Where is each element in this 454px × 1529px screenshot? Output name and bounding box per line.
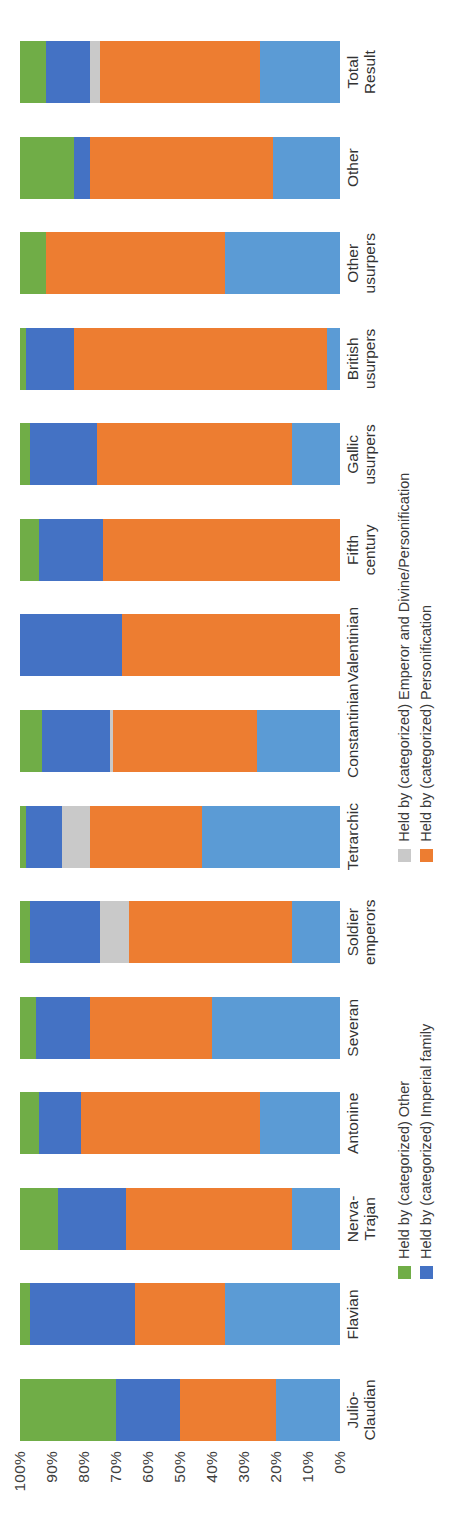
- bar-segment[interactable]: [260, 41, 340, 103]
- bar-column[interactable]: [20, 1188, 340, 1250]
- x-axis-tick-label: Nerva-Trajan: [344, 1182, 379, 1256]
- bar-segment[interactable]: [212, 997, 340, 1059]
- bar-segment[interactable]: [20, 997, 36, 1059]
- bar-column[interactable]: [20, 1092, 340, 1154]
- y-axis-tick-label: 80%: [75, 1451, 93, 1483]
- bar-segment[interactable]: [20, 1188, 58, 1250]
- bar-segment[interactable]: [20, 901, 30, 963]
- bar-column[interactable]: [20, 232, 340, 294]
- legend-swatch-icon: [398, 1266, 411, 1279]
- bar-segment[interactable]: [116, 1379, 180, 1441]
- bar-segment[interactable]: [292, 1188, 340, 1250]
- bar-column[interactable]: [20, 423, 340, 485]
- bar-segment[interactable]: [135, 1283, 225, 1345]
- x-axis-tick-label: Total Result: [344, 35, 379, 109]
- bar-segment[interactable]: [103, 519, 340, 581]
- bar-segment[interactable]: [126, 1188, 292, 1250]
- bar-column[interactable]: [20, 41, 340, 103]
- bar-segment[interactable]: [39, 519, 103, 581]
- bar-column[interactable]: [20, 710, 340, 772]
- bar-segment[interactable]: [81, 1092, 260, 1154]
- bar-segment[interactable]: [276, 1379, 340, 1441]
- y-axis-tick-label: 50%: [171, 1451, 189, 1483]
- bar-segment[interactable]: [90, 806, 202, 868]
- bar-segment[interactable]: [30, 901, 100, 963]
- bar-segment[interactable]: [20, 1092, 39, 1154]
- bar-segment[interactable]: [292, 423, 340, 485]
- legend-item[interactable]: Held by (categorized) Imperial family: [418, 892, 434, 1279]
- x-axis-tick-label: Antonine: [344, 1086, 361, 1160]
- bar-segment[interactable]: [327, 328, 340, 390]
- bar-segment[interactable]: [273, 137, 340, 199]
- bar-segment[interactable]: [20, 519, 39, 581]
- bar-segment[interactable]: [90, 137, 272, 199]
- bar-segment[interactable]: [20, 1379, 116, 1441]
- bar-segment[interactable]: [225, 232, 340, 294]
- bar-segment[interactable]: [180, 1379, 276, 1441]
- x-axis-tick-label: Severan: [344, 991, 361, 1065]
- legend-item[interactable]: Held by (categorized) Emperor and Divine…: [396, 341, 412, 862]
- legend-item[interactable]: Held by (categorized) Other: [396, 892, 412, 1279]
- bar-segment[interactable]: [100, 41, 260, 103]
- bar-segment[interactable]: [202, 806, 340, 868]
- x-axis-tick-label: Other usurpers: [344, 226, 379, 300]
- bar-segment[interactable]: [20, 1283, 30, 1345]
- y-axis-percent: 100%90%80%70%60%50%40%30%20%10%0%: [20, 1445, 340, 1529]
- bar-column[interactable]: [20, 615, 340, 677]
- bar-segment[interactable]: [39, 1092, 81, 1154]
- bar-column[interactable]: [20, 806, 340, 868]
- bar-segment[interactable]: [74, 328, 327, 390]
- x-axis-tick-label: Fifth century: [344, 513, 379, 587]
- bar-segment[interactable]: [113, 710, 257, 772]
- bar-segment[interactable]: [58, 1188, 125, 1250]
- bar-segment[interactable]: [20, 232, 46, 294]
- chart-legend: Held by (categorized) OtherHeld by (cate…: [396, 179, 448, 1279]
- bar-segment[interactable]: [42, 710, 109, 772]
- bar-segment[interactable]: [46, 232, 225, 294]
- bar-segment[interactable]: [100, 901, 129, 963]
- bar-segment[interactable]: [20, 615, 122, 677]
- x-axis-tick-label: Other: [344, 131, 361, 205]
- bar-segment[interactable]: [292, 901, 340, 963]
- bar-segment[interactable]: [20, 137, 74, 199]
- bar-column[interactable]: [20, 1379, 340, 1441]
- bar-segment[interactable]: [122, 615, 340, 677]
- legend-swatch-icon: [420, 849, 433, 862]
- bar-segment[interactable]: [20, 41, 46, 103]
- bar-column[interactable]: [20, 519, 340, 581]
- bar-segment[interactable]: [30, 423, 97, 485]
- x-axis-tick-label: Soldier emperors: [344, 895, 379, 969]
- x-axis-tick-label: Valentinian: [344, 609, 361, 683]
- legend-label: Held by (categorized) Emperor and Divine…: [396, 473, 412, 842]
- legend-item[interactable]: Held by (categorized) Personification: [418, 341, 434, 862]
- bar-segment[interactable]: [74, 137, 90, 199]
- y-axis-tick-label: 100%: [11, 1451, 29, 1491]
- plot-area: [20, 41, 340, 1441]
- x-axis-tick-label: Tetrarchic: [344, 800, 361, 874]
- rotated-chart-canvas: 100%90%80%70%60%50%40%30%20%10%0% Julio-…: [0, 0, 454, 1529]
- bar-column[interactable]: [20, 997, 340, 1059]
- bar-column[interactable]: [20, 1283, 340, 1345]
- bar-segment[interactable]: [129, 901, 292, 963]
- bar-segment[interactable]: [30, 1283, 136, 1345]
- bar-segment[interactable]: [260, 1092, 340, 1154]
- bar-segment[interactable]: [62, 806, 91, 868]
- x-axis-tick-label: British usurpers: [344, 322, 379, 396]
- bar-segment[interactable]: [20, 710, 42, 772]
- bar-column[interactable]: [20, 901, 340, 963]
- bar-segment[interactable]: [97, 423, 292, 485]
- y-axis-tick-label: 60%: [139, 1451, 157, 1483]
- bar-segment[interactable]: [257, 710, 340, 772]
- bar-column[interactable]: [20, 137, 340, 199]
- bar-segment[interactable]: [36, 997, 90, 1059]
- bar-column[interactable]: [20, 328, 340, 390]
- bar-segment[interactable]: [46, 41, 91, 103]
- bar-segment[interactable]: [90, 41, 100, 103]
- bar-segment[interactable]: [20, 423, 30, 485]
- y-axis-tick-label: 40%: [203, 1451, 221, 1483]
- bar-segment[interactable]: [90, 997, 212, 1059]
- bar-segment[interactable]: [225, 1283, 340, 1345]
- bar-segment[interactable]: [26, 806, 61, 868]
- bar-segment[interactable]: [26, 328, 74, 390]
- y-axis-tick-label: 70%: [107, 1451, 125, 1483]
